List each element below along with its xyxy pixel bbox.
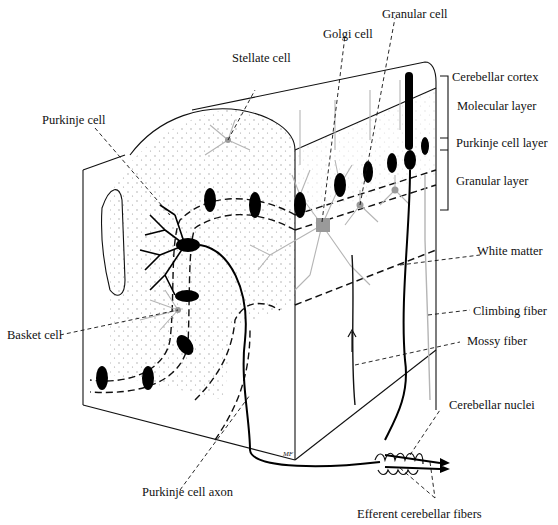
artist-signature: MF — [282, 450, 294, 458]
arrow-up-icon — [348, 330, 356, 352]
label-purkinje-cell-layer: Purkinje cell layer — [456, 136, 548, 150]
label-cerebellar-cortex: Cerebellar cortex — [452, 70, 539, 84]
label-mossy-fiber: Mossy fiber — [467, 334, 528, 348]
label-cerebellar-nuclei: Cerebellar nuclei — [449, 398, 535, 412]
cerebellar-nuclei — [375, 453, 450, 474]
label-molecular-layer: Molecular layer — [457, 99, 537, 113]
label-purkinje-cell-axon: Purkinje cell axon — [142, 485, 234, 499]
tissue-block — [83, 62, 436, 460]
arrow-right-icon — [440, 458, 450, 473]
label-purkinje-cell: Purkinje cell — [42, 113, 106, 127]
label-golgi-cell: Golgi cell — [323, 27, 373, 41]
cerebellum-diagram: Stellate cell Golgi cell Granular cell P… — [0, 0, 558, 525]
label-stellate-cell: Stellate cell — [232, 51, 291, 65]
label-basket-cell: Basket cell — [7, 328, 63, 342]
purkinje-axon-descending — [385, 170, 410, 440]
label-white-matter: White matter — [477, 244, 543, 258]
label-efferent-fibers: Efferent cerebellar fibers — [357, 507, 482, 521]
label-granular-cell: Granular cell — [382, 7, 448, 21]
climbing-fiber — [425, 175, 430, 400]
layer-bracket — [440, 76, 448, 210]
label-climbing-fiber: Climbing fiber — [473, 304, 548, 318]
label-granular-layer: Granular layer — [456, 174, 529, 188]
